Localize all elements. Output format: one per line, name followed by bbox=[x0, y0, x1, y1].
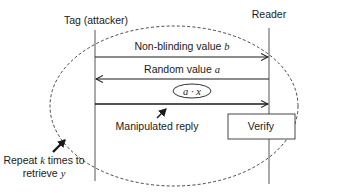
repeat-arrow-icon bbox=[53, 140, 65, 152]
message-2-label: Random value a bbox=[144, 63, 220, 75]
message-1-label: Non-blinding value b bbox=[134, 40, 229, 52]
participant-reader-label: Reader bbox=[252, 8, 287, 20]
annotation-arrow-icon bbox=[157, 109, 166, 118]
repeat-note-line-1: Repeat k times to bbox=[3, 154, 84, 166]
participant-tag-label: Tag (attacker) bbox=[64, 14, 128, 26]
verify-label: Verify bbox=[248, 120, 275, 132]
repeat-note-line-2: retrieve y bbox=[23, 167, 66, 179]
sequence-diagram: Tag (attacker) Reader Non-blinding value… bbox=[0, 0, 338, 193]
manipulated-reply-label: Manipulated reply bbox=[116, 120, 200, 132]
payload-label: a · x bbox=[183, 86, 201, 97]
